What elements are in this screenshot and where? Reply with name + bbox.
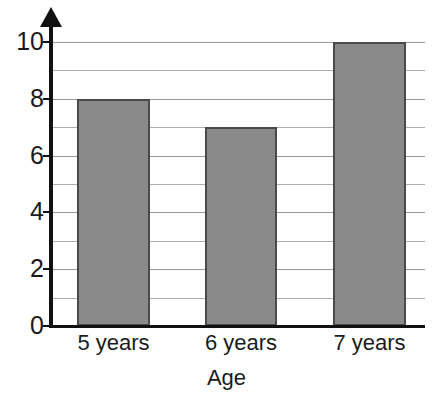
y-tick [43,268,52,270]
plot-area [52,42,425,326]
y-tick [43,98,52,100]
y-tick-label: 2 [0,256,44,281]
x-axis-line [49,325,425,328]
x-tick-label: 7 years [310,332,430,354]
x-tick-label: 6 years [181,332,301,354]
bar-7-years [333,42,406,326]
y-tick-label: 10 [0,29,44,54]
y-tick-label-group: 0246810 [0,0,44,399]
y-axis-line [49,22,53,328]
y-tick-label: 0 [0,313,44,338]
y-tick [43,41,52,43]
y-tick-label: 6 [0,143,44,168]
x-axis-title-text: Age [207,365,246,390]
x-axis-title: Age [0,367,445,389]
y-tick-label: 8 [0,86,44,111]
bar-6-years [205,127,277,326]
bar-5-years [77,99,150,326]
x-tick-label: 5 years [54,332,174,354]
bar-chart: 0246810 5 years6 years7 years Age [0,0,445,399]
y-tick [43,211,52,213]
y-tick [43,155,52,157]
y-tick-label: 4 [0,199,44,224]
